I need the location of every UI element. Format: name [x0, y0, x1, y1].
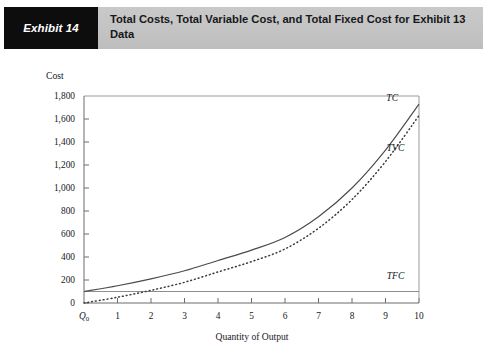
x-tick-label: 8: [350, 311, 355, 321]
y-tick-label: 800: [61, 206, 75, 216]
y-tick-label: 1,200: [54, 160, 75, 170]
x-tick-label: 9: [383, 311, 388, 321]
plot-frame: [84, 96, 419, 303]
x-tick-label: 7: [316, 311, 321, 321]
x-tick-label: 10: [414, 311, 424, 321]
x-tick-label: 5: [249, 311, 254, 321]
curve-label-tvc: TVC: [387, 142, 405, 153]
chart-area: 02004006008001,0001,2001,4001,6001,800 Q…: [0, 52, 487, 362]
tc-curve: [84, 104, 419, 291]
x-tick-label: 3: [182, 311, 187, 321]
y-tick-label: 600: [61, 229, 75, 239]
x-axis-title: Quantity of Output: [215, 331, 288, 342]
y-tick-label: 1,400: [54, 137, 75, 147]
curve-label-tc: TC: [386, 92, 398, 103]
tvc-curve: [84, 116, 419, 303]
y-tick-label: 0: [70, 298, 75, 308]
exhibit-number-badge: Exhibit 14: [4, 7, 98, 49]
x-tick-label: Q0: [79, 311, 90, 322]
x-tick-label: 1: [115, 311, 120, 321]
curve-labels: TCTVCTFC: [386, 92, 405, 281]
y-tick-label: 400: [61, 252, 75, 262]
x-tick-label: 2: [149, 311, 154, 321]
exhibit-number-label: Exhibit 14: [23, 22, 78, 34]
y-tick-label: 200: [61, 275, 75, 285]
y-axis-title: Cost: [46, 70, 64, 81]
x-tick-label: 6: [283, 311, 288, 321]
x-tick-label: 4: [216, 311, 221, 321]
y-tick-label: 1,000: [54, 183, 75, 193]
curve-label-tfc: TFC: [387, 270, 405, 281]
y-tick-label: 1,800: [54, 91, 75, 101]
y-tick-label: 1,600: [54, 114, 75, 124]
exhibit-title: Total Costs, Total Variable Cost, and To…: [110, 12, 470, 41]
x-axis-ticks: Q012345678910: [79, 298, 424, 322]
cost-curves-chart: 02004006008001,0001,2001,4001,6001,800 Q…: [0, 52, 487, 362]
exhibit-figure: Exhibit 14 Total Costs, Total Variable C…: [0, 0, 487, 362]
